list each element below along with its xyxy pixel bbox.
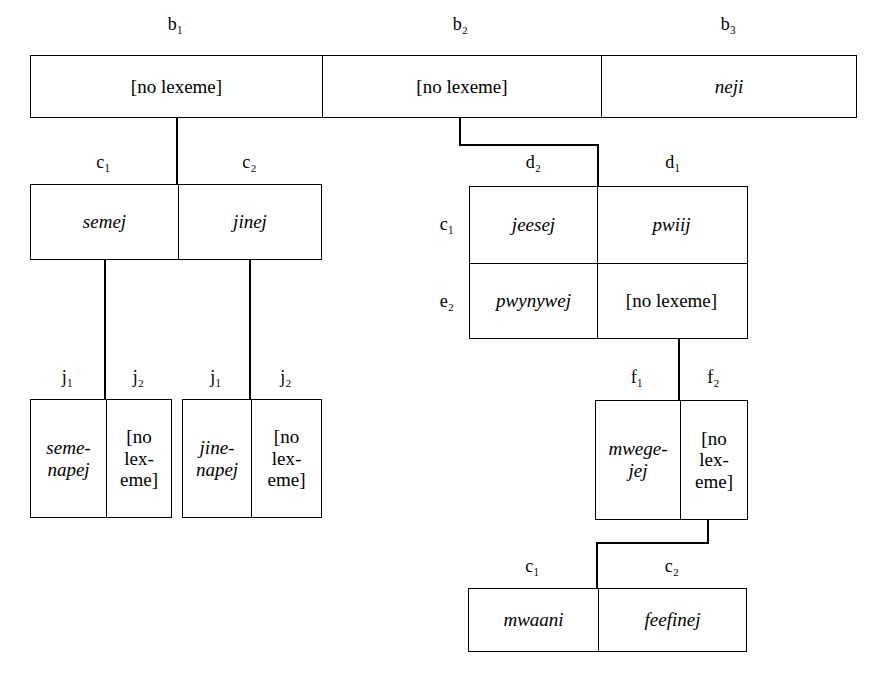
- column-label-c2-bottom: c₂: [597, 556, 747, 577]
- column-label-j1-box2: j₁: [182, 367, 250, 388]
- cell-d2-c1-jeesej-text: jeesej: [512, 214, 555, 236]
- row-label-e2-dgrid-text: e₂: [440, 291, 454, 311]
- top-row-box: [no lexeme] [no lexeme] neji: [30, 55, 857, 118]
- cell-d2-e2-pwynywej[interactable]: pwynywej: [470, 264, 597, 338]
- cell-j2-no-lexeme-box1-line2: lex-: [120, 448, 158, 470]
- bottom-c-box: mwaani feefinej: [468, 588, 747, 652]
- row-label-c1-dgrid: c₁: [432, 214, 462, 235]
- connector-b1-to-c: [176, 118, 178, 184]
- column-label-j2-box2: j₂: [250, 367, 322, 388]
- cell-c2-feefinej-text: feefinej: [645, 609, 701, 631]
- column-label-j1-box1: j₁: [30, 367, 105, 388]
- connector-b2-segment-right: [459, 144, 599, 146]
- cell-c2-jinej[interactable]: jinej: [178, 185, 321, 259]
- column-label-f2: f₂: [679, 367, 748, 388]
- cell-j2-no-lexeme-box2-line3: eme]: [268, 469, 306, 491]
- d-grid-row-c1: jeesej pwiij: [470, 187, 747, 263]
- column-label-b1: b₁: [30, 14, 321, 35]
- row-label-e2-dgrid: e₂: [432, 291, 462, 312]
- d-grid-row-e2: pwynywej [no lexeme]: [470, 263, 747, 338]
- cell-b3-text: neji: [715, 76, 744, 98]
- row-label-c1-dgrid-text: c₁: [440, 214, 454, 234]
- column-label-j2-box2-text: j₂: [280, 367, 291, 387]
- cell-f1-mwegejej-line2: jej: [608, 460, 667, 482]
- cell-c1-semej[interactable]: semej: [31, 185, 178, 259]
- cell-j1-jinenapej[interactable]: jine- napej: [183, 400, 251, 517]
- column-label-b1-text: b₁: [168, 14, 183, 34]
- cell-c2-feefinej[interactable]: feefinej: [598, 589, 746, 651]
- lexeme-paradigm-diagram: b₁ b₂ b₃ [no lexeme] [no lexeme] neji c₁…: [0, 0, 882, 678]
- cell-j2-no-lexeme-box1-line1: [no: [120, 426, 158, 448]
- connector-b2-segment-down1: [459, 118, 461, 146]
- cell-d1-c1-pwiij-text: pwiij: [652, 214, 690, 236]
- d-grid-box: jeesej pwiij pwynywej [no lexeme]: [469, 186, 748, 339]
- column-label-j2-box1: j₂: [105, 367, 172, 388]
- cell-c1-semej-text: semej: [83, 211, 126, 233]
- cell-d2-e2-pwynywej-text: pwynywej: [496, 290, 571, 312]
- column-label-f1-text: f₁: [631, 367, 643, 387]
- cell-b2-text: [no lexeme]: [416, 76, 507, 98]
- cell-j1-semenapej-line1: seme-: [46, 437, 90, 459]
- cell-j2-no-lexeme-box2-line1: [no: [268, 426, 306, 448]
- connector-fbox-segment-left: [596, 542, 709, 544]
- column-label-c1-bottom: c₁: [468, 556, 597, 577]
- cell-b1[interactable]: [no lexeme]: [31, 56, 322, 117]
- j-box-1: seme- napej [no lex- eme]: [30, 399, 172, 518]
- cell-d1-e2-no-lexeme[interactable]: [no lexeme]: [597, 264, 745, 338]
- column-label-j1-box1-text: j₁: [62, 367, 73, 387]
- cell-j2-no-lexeme-box2-line2: lex-: [268, 448, 306, 470]
- left-c-box: semej jinej: [30, 184, 322, 260]
- connector-fbox-segment-down1: [707, 520, 709, 544]
- cell-j1-jinenapej-line1: jine-: [196, 437, 238, 459]
- column-label-b2-text: b₂: [453, 14, 468, 34]
- column-label-d1: d₁: [598, 152, 748, 173]
- column-label-c2-left: c₂: [177, 152, 322, 173]
- column-label-b3: b₃: [600, 14, 857, 35]
- column-label-d1-text: d₁: [665, 152, 680, 172]
- cell-d1-c1-pwiij[interactable]: pwiij: [597, 187, 745, 263]
- cell-j1-jinenapej-line2: napej: [196, 459, 238, 481]
- cell-j2-no-lexeme-box1-line3: eme]: [120, 469, 158, 491]
- f-box: mwege- jej [no lex- eme]: [595, 400, 748, 520]
- column-label-f1: f₁: [595, 367, 679, 388]
- cell-d2-c1-jeesej[interactable]: jeesej: [470, 187, 597, 263]
- cell-f2-no-lexeme-line2: lex-: [695, 449, 733, 471]
- column-label-d2: d₂: [469, 152, 598, 173]
- cell-c2-jinej-text: jinej: [233, 211, 267, 233]
- cell-f2-no-lexeme[interactable]: [no lex- eme]: [680, 401, 747, 519]
- cell-f1-mwegejej-line1: mwege-: [608, 438, 667, 460]
- column-label-j2-box1-text: j₂: [133, 367, 144, 387]
- cell-b3[interactable]: neji: [601, 56, 856, 117]
- column-label-f2-text: f₂: [707, 367, 719, 387]
- j-box-2: jine- napej [no lex- eme]: [182, 399, 322, 518]
- cell-j2-no-lexeme-box1[interactable]: [no lex- eme]: [106, 400, 171, 517]
- cell-j1-semenapej[interactable]: seme- napej: [31, 400, 106, 517]
- cell-b2[interactable]: [no lexeme]: [322, 56, 601, 117]
- cell-c1-mwaani-text: mwaani: [503, 609, 563, 631]
- column-label-b2: b₂: [321, 14, 600, 35]
- cell-j2-no-lexeme-box2[interactable]: [no lex- eme]: [251, 400, 321, 517]
- cell-d1-e2-no-lexeme-text: [no lexeme]: [626, 290, 717, 312]
- column-label-c1-bottom-text: c₁: [525, 556, 539, 576]
- column-label-c2-bottom-text: c₂: [665, 556, 679, 576]
- cell-f2-no-lexeme-line3: eme]: [695, 471, 733, 493]
- cell-f2-no-lexeme-line1: [no: [695, 428, 733, 450]
- column-label-c1-left: c₁: [30, 152, 177, 173]
- column-label-c2-left-text: c₂: [242, 152, 256, 172]
- cell-j1-semenapej-line2: napej: [46, 459, 90, 481]
- column-label-d2-text: d₂: [526, 152, 541, 172]
- column-label-b3-text: b₃: [721, 14, 736, 34]
- column-label-j1-box2-text: j₁: [210, 367, 221, 387]
- cell-c1-mwaani[interactable]: mwaani: [469, 589, 598, 651]
- cell-b1-text: [no lexeme]: [131, 76, 222, 98]
- column-label-c1-left-text: c₁: [96, 152, 110, 172]
- cell-f1-mwegejej[interactable]: mwege- jej: [596, 401, 680, 519]
